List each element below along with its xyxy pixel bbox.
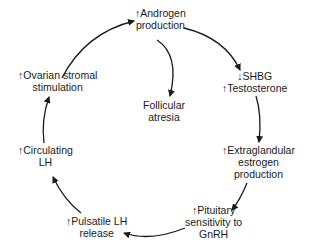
arrow-circulating-to-ovarian [43, 97, 49, 143]
node-line: stimulation [18, 81, 97, 93]
cycle-arrows [0, 0, 314, 246]
node-line: production [222, 168, 295, 180]
node-pulsatile-lh-release: ↑Pulsatile LH release [66, 215, 127, 239]
node-line: ↑Ovarian stromal [18, 69, 97, 81]
node-line: ↓SHBG [222, 70, 287, 82]
node-shbg-testosterone: ↓SHBG ↑Testosterone [222, 70, 287, 94]
arrow-pulsatile-to-circulating [53, 177, 81, 213]
node-line: estrogen [222, 156, 295, 168]
node-androgen-production: ↑Androgen production [135, 7, 186, 31]
node-follicular-atresia: Follicular atresia [143, 99, 185, 123]
node-line: GnRH [185, 228, 242, 240]
node-line: production [135, 19, 186, 31]
node-line: Follicular [143, 99, 185, 111]
node-extraglandular-estrogen: ↑Extraglandular estrogen production [222, 144, 295, 180]
arrow-shbg-to-extraglandular [256, 96, 260, 142]
arrow-androgen-to-shbg [184, 28, 240, 70]
node-ovarian-stromal-stimulation: ↑Ovarian stromal stimulation [18, 69, 97, 93]
arrow-pituitary-to-pulsatile [124, 228, 185, 237]
node-line: LH [18, 156, 73, 168]
node-line: release [66, 227, 127, 239]
node-line: atresia [143, 111, 185, 123]
arrow-androgen-to-follicular [157, 40, 173, 96]
node-line: ↑Androgen [135, 7, 186, 19]
node-line: ↑Extraglandular [222, 144, 295, 156]
node-pituitary-sensitivity: ↑Pituitary sensitivity to GnRH [185, 204, 242, 240]
node-line: ↑Circulating [18, 144, 73, 156]
node-circulating-lh: ↑Circulating LH [18, 144, 73, 168]
node-line: sensitivity to [185, 216, 242, 228]
node-line: ↑Pituitary [185, 204, 242, 216]
node-line: ↑Testosterone [222, 82, 287, 94]
node-line: ↑Pulsatile LH [66, 215, 127, 227]
